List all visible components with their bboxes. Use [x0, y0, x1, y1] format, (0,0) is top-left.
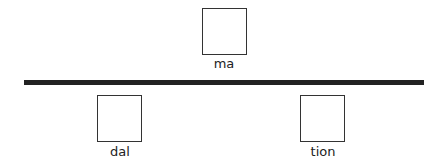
divider-bar [24, 80, 424, 85]
label-bottom-tion: tion [283, 145, 363, 159]
box-top-ma [202, 8, 247, 55]
label-bottom-dal: dal [80, 145, 160, 159]
label-top-ma: ma [184, 57, 264, 71]
box-bottom-tion [300, 95, 345, 142]
box-bottom-dal [97, 95, 142, 142]
